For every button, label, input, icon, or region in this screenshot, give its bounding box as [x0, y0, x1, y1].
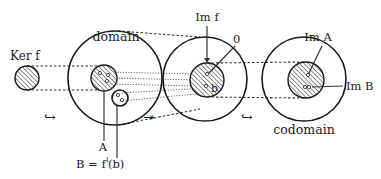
kernel-circle: [15, 66, 39, 90]
image-label: Im f: [195, 10, 219, 24]
im-a-label: Im A: [304, 30, 332, 44]
image-circle: [190, 63, 224, 97]
image-set: b Im f 0: [163, 10, 247, 121]
injection-arrow-1: ↪: [44, 109, 56, 125]
zero-label: 0: [233, 32, 240, 46]
kernel-set: Ker f: [10, 49, 41, 90]
kernel-label: Ker f: [10, 49, 41, 63]
zero-pointer: [209, 46, 235, 73]
injection-arrow-2: ↪: [241, 109, 253, 125]
codomain-set: Im A Im B codomain: [262, 30, 374, 137]
subset-a-label: A: [98, 140, 108, 154]
canonical-factorization-diagram: Ker f domain A B = f -1 (b) b Im f 0: [0, 0, 381, 179]
im-a-circle: [288, 62, 324, 98]
b-point-label: b: [211, 82, 218, 95]
surjection-arrow: ↠: [143, 109, 155, 125]
preimage-b-label: B = f -1 (b): [76, 156, 124, 171]
svg-text:(b): (b): [108, 157, 124, 171]
codomain-label: codomain: [273, 122, 334, 137]
preimage-b-circle: [112, 90, 128, 106]
im-b-label: Im B: [346, 79, 374, 93]
domain-label: domain: [93, 29, 140, 44]
subset-a-circle: [91, 65, 117, 91]
svg-text:B = f: B = f: [76, 157, 106, 171]
